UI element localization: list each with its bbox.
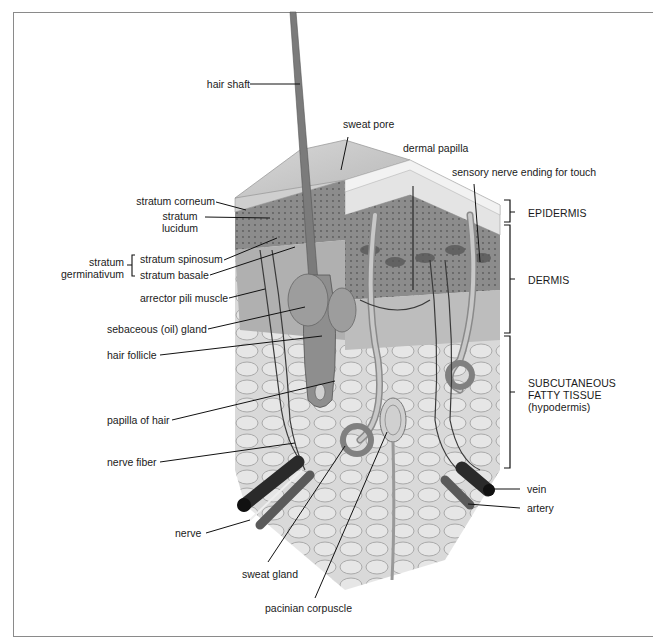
label-dermal-papilla: dermal papilla [403,142,468,154]
label-dermis: DERMIS [528,274,569,286]
germinativum-bracket [127,255,135,276]
label-hair-shaft: hair shaft [200,78,250,90]
label-hair-follicle: hair follicle [107,349,157,361]
layer-brackets [504,200,515,468]
label-epidermis: EPIDERMIS [528,207,587,219]
label-stratum-corneum: stratum corneum [120,195,215,207]
label-sebaceous-gland: sebaceous (oil) gland [107,323,207,335]
label-vein: vein [527,483,546,495]
label-stratum-lucidum: stratum lucidum [160,210,200,234]
label-subcutaneous-fatty-tissue: SUBCUTANEOUS FATTY TISSUE (hypodermis) [528,377,616,413]
label-sensory-nerve-ending: sensory nerve ending for touch [452,166,596,178]
label-nerve: nerve [175,527,201,539]
label-sweat-gland: sweat gland [242,568,298,580]
label-arrector-pili-muscle: arrector pili muscle [140,292,228,304]
label-pacinian-corpuscle: pacinian corpuscle [265,602,352,614]
label-nerve-fiber: nerve fiber [107,456,157,468]
label-papilla-of-hair: papilla of hair [107,414,169,426]
label-sweat-pore: sweat pore [343,118,394,130]
label-artery: artery [527,502,554,514]
sebaceous-gland-shape [288,274,328,326]
label-stratum-germinativum: stratum germinativum [56,256,124,280]
label-stratum-spinosum: stratum spinosum [140,253,223,265]
label-stratum-basale: stratum basale [140,269,209,281]
